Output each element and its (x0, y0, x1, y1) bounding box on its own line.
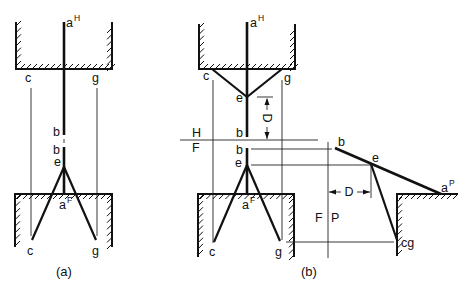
leg-ge-top (247, 69, 282, 97)
arrow-up-icon (265, 98, 270, 105)
figure-b: D aH c g e b H F b e aF c g (180, 13, 458, 279)
label-c-front: c (209, 245, 215, 259)
label-g-top: g (284, 71, 291, 85)
hatch-mark (289, 255, 294, 260)
figure-a: aH c g b b e aF c g (a) (15, 13, 115, 279)
label-g-top: g (92, 71, 99, 85)
label-b-top: b (53, 125, 60, 139)
label-e-top: e (236, 91, 243, 105)
leg-e-cg (371, 164, 397, 240)
label-f-aux: F (315, 211, 323, 225)
figure-b-auxiliary-view: D b e aP cg (329, 135, 458, 256)
label-a-aux: aP (441, 178, 455, 195)
label-c-top: c (25, 71, 31, 85)
label-a-top: aH (250, 13, 264, 30)
label-g-front: g (92, 244, 99, 258)
arrow-down-icon (265, 132, 270, 139)
label-a-front: aF (242, 195, 255, 212)
label-a-front: aF (59, 195, 72, 212)
label-b-front: b (236, 143, 243, 157)
label-h: H (192, 126, 201, 140)
label-c-front: c (27, 244, 33, 258)
reference-line-hf: H F (180, 126, 318, 155)
label-f: F (192, 141, 200, 155)
label-e-front: e (54, 155, 61, 169)
label-e-aux: e (372, 151, 379, 165)
top-wall-hatching (199, 23, 298, 71)
arrow-right-icon (363, 190, 370, 195)
label-b-top: b (236, 126, 243, 140)
label-p-aux: P (331, 211, 339, 225)
orthographic-projection-diagram: aH c g b b e aF c g (a) (0, 0, 464, 282)
caption-b: (b) (301, 264, 317, 279)
label-a-top: aH (66, 13, 80, 30)
dimension-label-d-vertical: D (260, 113, 274, 122)
label-c-top: c (203, 69, 209, 83)
dimension-label-d-horizontal: D (344, 185, 353, 199)
label-b-aux: b (338, 135, 345, 149)
arrow-left-icon (329, 190, 336, 195)
label-e-front: e (235, 156, 242, 170)
label-g-front: g (275, 245, 282, 259)
label-cg-aux: cg (401, 236, 414, 250)
reference-line-fp: F P (315, 142, 339, 258)
caption-a: (a) (56, 264, 72, 279)
